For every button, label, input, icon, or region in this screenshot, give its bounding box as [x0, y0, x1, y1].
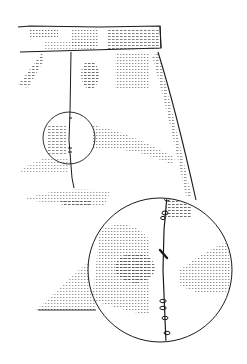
center-zipper-seam: [68, 52, 74, 188]
skirt-zipper-illustration: [0, 0, 247, 364]
waistband: [18, 26, 161, 52]
magnified-zipper-view: [88, 196, 232, 343]
